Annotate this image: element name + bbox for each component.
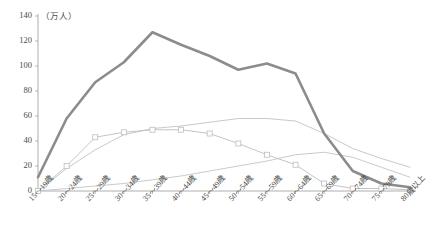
- series-marker: [64, 164, 69, 169]
- series-marker: [179, 127, 184, 132]
- series-line: [38, 32, 410, 187]
- series-marker: [236, 141, 241, 146]
- series-marker: [93, 135, 98, 140]
- series-marker: [121, 130, 126, 135]
- series-marker: [293, 162, 298, 167]
- series-marker: [207, 131, 212, 136]
- series-marker: [264, 152, 269, 157]
- series-marker: [150, 127, 155, 132]
